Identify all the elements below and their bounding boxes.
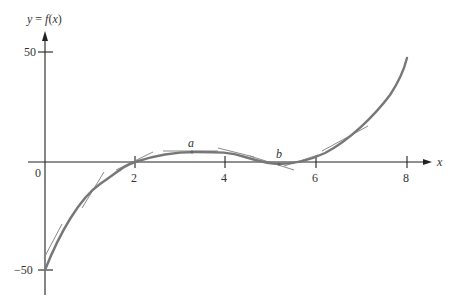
y-axis-label: y = f(x) [26, 12, 62, 26]
function-curve [45, 58, 407, 270]
point-b-marker [278, 163, 281, 166]
point-label-a: a [188, 136, 194, 150]
point-label-b: b [276, 147, 282, 161]
x-tick-label-6: 6 [312, 171, 318, 185]
point-a-marker [191, 151, 194, 154]
x-axis-arrow-icon [423, 159, 432, 165]
function-graph: y = f(x) x 0 2 4 6 8 50 −50 a b [0, 0, 467, 301]
x-axis-label: x [436, 155, 443, 169]
axes [28, 40, 425, 295]
y-axis-arrow-icon [42, 31, 48, 41]
tangent-lines [44, 126, 368, 258]
y-tick-label-neg50: −50 [14, 263, 33, 277]
x-tick-label-8: 8 [403, 171, 409, 185]
x-tick-label-2: 2 [131, 171, 137, 185]
y-tick-label-50: 50 [24, 45, 36, 59]
tangent-at-7 [322, 126, 368, 151]
x-tick-label-4: 4 [221, 171, 227, 185]
origin-label: 0 [35, 166, 41, 180]
